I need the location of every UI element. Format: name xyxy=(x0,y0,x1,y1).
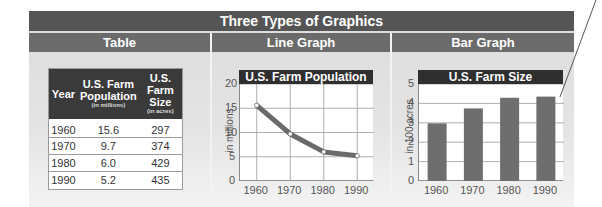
y-tick-label: 5 xyxy=(404,77,414,89)
bar-chart-title: U.S. Farm Size xyxy=(418,70,563,84)
x-tick-label: 1980 xyxy=(309,184,337,196)
cell-year: 1960 xyxy=(49,121,78,138)
x-tick-label: 1970 xyxy=(458,184,486,196)
header-population: U.S. Farm Population (in millions) xyxy=(78,69,139,121)
line-chart-title: U.S. Farm Population xyxy=(239,70,373,84)
cell-population: 5.2 xyxy=(78,172,139,189)
table-row: 1980 6.0 429 xyxy=(49,155,182,172)
cell-size: 435 xyxy=(139,172,182,189)
cell-size: 429 xyxy=(139,155,182,172)
section-header-line-graph: Line Graph xyxy=(212,33,390,52)
y-tick-label: 3 xyxy=(404,116,414,128)
column-divider xyxy=(210,33,212,207)
column-divider xyxy=(390,33,392,207)
y-tick-label: 15 xyxy=(225,101,235,113)
bar-chart-svg xyxy=(419,84,564,181)
cell-size: 297 xyxy=(139,121,182,138)
farm-data-table: Year U.S. Farm Population (in millions) … xyxy=(49,69,182,189)
section-header-table: Table xyxy=(29,33,210,52)
y-tick-label: 2 xyxy=(404,135,414,147)
cell-population: 9.7 xyxy=(78,138,139,155)
table-header-row: Year U.S. Farm Population (in millions) … xyxy=(49,69,182,121)
x-tick-label: 1980 xyxy=(495,184,523,196)
cell-population: 15.6 xyxy=(78,121,139,138)
header-size: U.S. Farm Size (in acres) xyxy=(139,69,182,121)
y-tick-label: 4 xyxy=(404,96,414,108)
y-tick-label: 0 xyxy=(225,174,235,186)
table-row: 1970 9.7 374 xyxy=(49,138,182,155)
cell-year: 1970 xyxy=(49,138,78,155)
cell-size: 374 xyxy=(139,138,182,155)
y-tick-label: 1 xyxy=(404,155,414,167)
graphics-panel: Three Types of Graphics Table Line Graph… xyxy=(29,11,574,207)
x-tick-label: 1960 xyxy=(242,184,270,196)
table-row: 1990 5.2 435 xyxy=(49,172,182,189)
line-chart-plot xyxy=(239,84,373,181)
y-tick-label: 20 xyxy=(225,77,235,89)
x-tick-label: 1990 xyxy=(342,184,370,196)
header-year: Year xyxy=(49,69,78,121)
x-tick-label: 1970 xyxy=(275,184,303,196)
main-title: Three Types of Graphics xyxy=(29,11,574,31)
x-tick-label: 1990 xyxy=(531,184,559,196)
cell-population: 6.0 xyxy=(78,155,139,172)
table-row: 1960 15.6 297 xyxy=(49,121,182,138)
section-header-bar-graph: Bar Graph xyxy=(392,33,574,52)
x-tick-label: 1960 xyxy=(422,184,450,196)
y-tick-label: 5 xyxy=(225,150,235,162)
bar-chart-plot xyxy=(418,84,563,181)
y-tick-label: 10 xyxy=(225,126,235,138)
cell-year: 1990 xyxy=(49,172,78,189)
y-tick-label: 0 xyxy=(404,174,414,186)
cell-year: 1980 xyxy=(49,155,78,172)
line-chart-svg xyxy=(240,84,374,181)
